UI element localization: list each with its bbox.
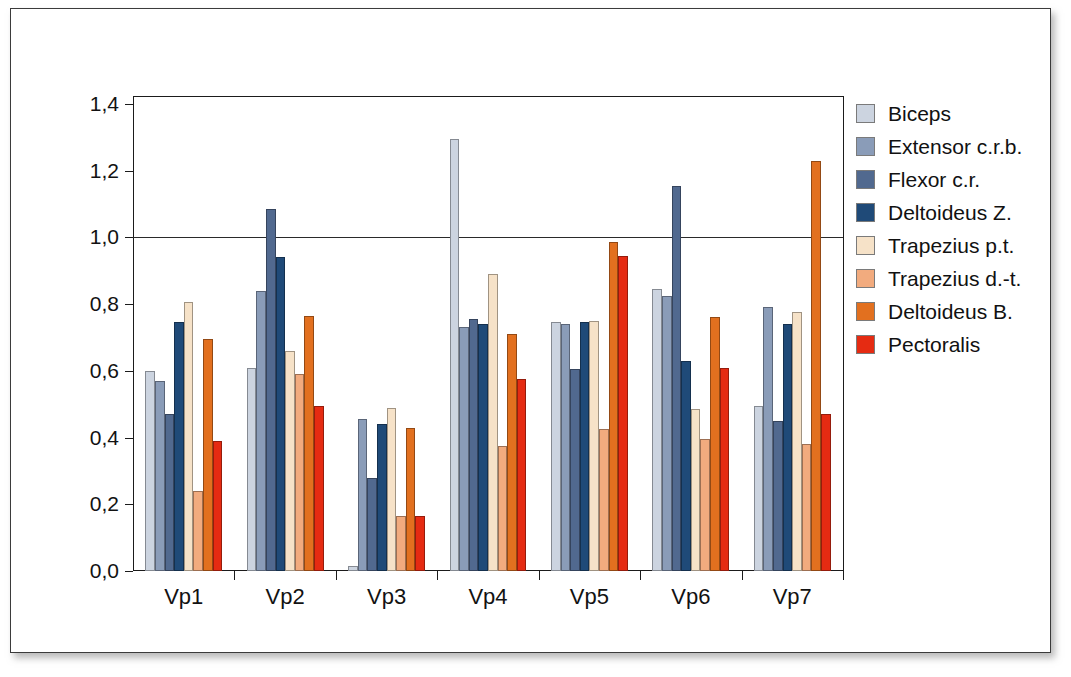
bar — [662, 296, 672, 571]
x-axis-tick-mark — [437, 571, 438, 580]
gridline — [133, 237, 843, 238]
bar — [720, 368, 730, 571]
bar — [193, 491, 203, 571]
legend-item[interactable]: Trapezius d.-t. — [856, 262, 1022, 295]
x-axis-category-label: Vp1 — [133, 584, 234, 610]
bar — [358, 419, 368, 571]
bar — [145, 371, 155, 571]
bar — [507, 334, 517, 571]
legend-item[interactable]: Deltoideus Z. — [856, 196, 1022, 229]
bar — [478, 324, 488, 571]
legend-item[interactable]: Flexor c.r. — [856, 163, 1022, 196]
bar — [700, 439, 710, 571]
plot-right-edge — [843, 96, 844, 571]
legend-color-swatch — [856, 236, 875, 255]
legend-color-swatch — [856, 203, 875, 222]
bar — [609, 242, 619, 571]
legend-item[interactable]: Trapezius p.t. — [856, 229, 1022, 262]
bar — [213, 441, 223, 571]
x-axis-category-label: Vp2 — [234, 584, 335, 610]
bar — [488, 274, 498, 571]
bar — [773, 421, 783, 571]
y-axis-tick-label: 0,0 — [67, 560, 119, 581]
bar — [450, 139, 460, 571]
bar — [599, 429, 609, 571]
y-axis-tick-mark — [125, 571, 133, 572]
bar — [174, 322, 184, 571]
bar — [184, 302, 194, 571]
legend-item-label: Trapezius d.-t. — [888, 268, 1021, 289]
bar — [652, 289, 662, 571]
y-axis-tick-label: 1,4 — [67, 93, 119, 114]
x-axis-tick-mark — [234, 571, 235, 580]
bar — [295, 374, 305, 571]
legend-item-label: Extensor c.r.b. — [888, 136, 1022, 157]
bar — [415, 516, 425, 571]
x-axis-category-label: Vp6 — [640, 584, 741, 610]
x-axis-tick-mark — [742, 571, 743, 580]
legend-color-swatch — [856, 269, 875, 288]
bar — [551, 322, 561, 571]
legend-item[interactable]: Biceps — [856, 97, 1022, 130]
bar — [672, 186, 682, 571]
bar — [387, 408, 397, 571]
legend-item-label: Pectoralis — [888, 334, 980, 355]
bar — [681, 361, 691, 571]
bar — [811, 161, 821, 571]
bar — [580, 322, 590, 571]
legend-color-swatch — [856, 170, 875, 189]
bar — [792, 312, 802, 571]
bar — [396, 516, 406, 571]
x-axis-tick-mark — [843, 571, 844, 580]
legend-color-swatch — [856, 335, 875, 354]
bar — [285, 351, 295, 571]
legend-item-label: Deltoideus Z. — [888, 202, 1012, 223]
y-axis-tick-label: 0,4 — [67, 427, 119, 448]
bar — [348, 566, 358, 571]
y-axis-tick-mark — [125, 304, 133, 305]
bar — [498, 446, 508, 571]
y-axis-tick-label: 1,0 — [67, 226, 119, 247]
chart-legend: BicepsExtensor c.r.b.Flexor c.r.Deltoide… — [856, 97, 1022, 361]
bar — [377, 424, 387, 571]
y-axis-tick-label: 0,8 — [67, 293, 119, 314]
bar — [691, 409, 701, 571]
bar — [618, 256, 628, 571]
bar — [469, 319, 479, 571]
x-axis-category-label: Vp4 — [437, 584, 538, 610]
bar — [165, 414, 175, 571]
bar — [589, 321, 599, 571]
bar — [314, 406, 324, 571]
chart-page-frame: 0,00,20,40,60,81,01,21,4 Vp1Vp2Vp3Vp4Vp5… — [10, 8, 1051, 653]
bar — [802, 444, 812, 571]
y-axis-tick-mark — [125, 504, 133, 505]
y-axis-tick-mark — [125, 104, 133, 105]
legend-item[interactable]: Deltoideus B. — [856, 295, 1022, 328]
bar — [203, 339, 213, 571]
legend-color-swatch — [856, 302, 875, 321]
legend-item[interactable]: Extensor c.r.b. — [856, 130, 1022, 163]
y-axis-tick-mark — [125, 438, 133, 439]
legend-item-label: Deltoideus B. — [888, 301, 1013, 322]
bar — [276, 257, 286, 571]
bar — [266, 209, 276, 571]
y-axis-tick-mark — [125, 171, 133, 172]
y-axis-tick-label: 1,2 — [67, 160, 119, 181]
legend-color-swatch — [856, 104, 875, 123]
legend-item[interactable]: Pectoralis — [856, 328, 1022, 361]
legend-color-swatch — [856, 137, 875, 156]
y-axis-tick-label: 0,6 — [67, 360, 119, 381]
x-axis-category-label: Vp5 — [539, 584, 640, 610]
bar — [821, 414, 831, 571]
bar — [754, 406, 764, 571]
bar — [763, 307, 773, 571]
bar — [406, 428, 416, 571]
bar — [367, 478, 377, 571]
y-axis-tick-mark — [125, 237, 133, 238]
x-axis-tick-mark — [640, 571, 641, 580]
bar — [256, 291, 266, 571]
bar — [155, 381, 165, 571]
grouped-bar-chart: 0,00,20,40,60,81,01,21,4 Vp1Vp2Vp3Vp4Vp5… — [11, 9, 1052, 654]
bar — [247, 368, 257, 571]
x-axis-category-label: Vp7 — [742, 584, 843, 610]
